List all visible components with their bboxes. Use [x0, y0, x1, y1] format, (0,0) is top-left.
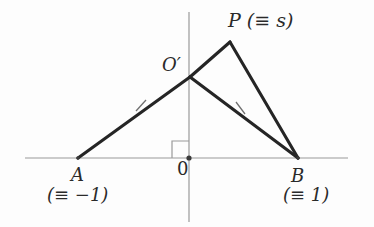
- geometry-figure: P (≡ s) O′ A B 0 (≡ −1) (≡ 1): [0, 0, 374, 227]
- point-dot-a: [76, 156, 80, 160]
- point-value-label-a: (≡ −1): [47, 186, 108, 204]
- point-dot-b: [296, 156, 300, 160]
- segment-p-b: [230, 42, 298, 158]
- segment-oprime-p: [190, 42, 230, 77]
- point-label-o-prime: O′: [162, 56, 181, 74]
- point-value-label-b: (≡ 1): [283, 186, 329, 204]
- point-label-b: B: [291, 167, 304, 185]
- segment-oprime-b: [190, 77, 298, 158]
- origin-label: 0: [177, 160, 188, 178]
- right-angle-marker: [172, 141, 189, 158]
- point-label-p: P (≡ s): [228, 11, 293, 30]
- segment-a-oprime: [78, 77, 190, 158]
- point-label-a: A: [71, 166, 84, 184]
